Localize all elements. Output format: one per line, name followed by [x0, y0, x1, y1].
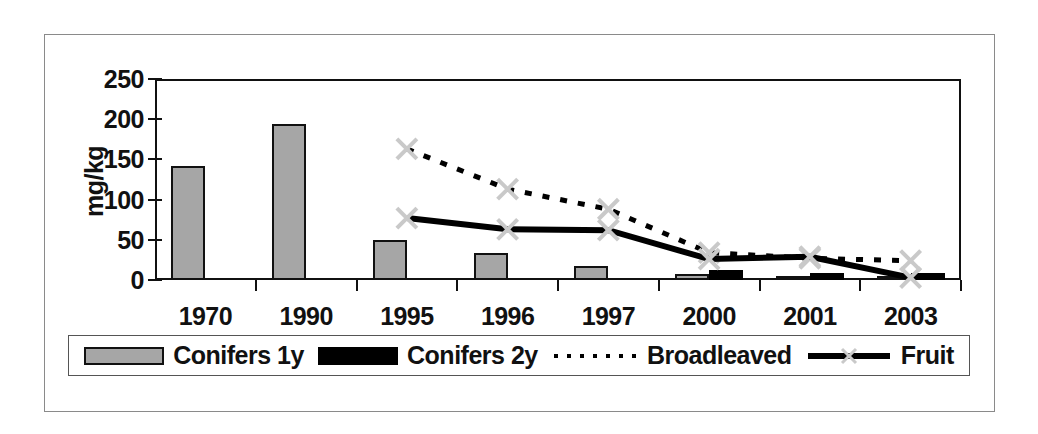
- x-tick-mark: [658, 280, 660, 291]
- legend-label: Fruit: [901, 341, 954, 370]
- black-bar-swatch: [318, 347, 398, 365]
- y-tick-label: 0: [131, 268, 144, 293]
- legend-label: Conifers 2y: [407, 341, 538, 370]
- line-series-layer: [155, 79, 961, 280]
- x-tick-mark: [759, 280, 761, 291]
- x-tick-label: 1970: [179, 302, 232, 331]
- chart-figure: mg/kg 050100150200250 197019901995199619…: [44, 34, 995, 412]
- legend-item-conifers-2y[interactable]: Conifers 2y: [318, 341, 538, 370]
- legend-item-fruit[interactable]: Fruit: [806, 341, 954, 370]
- marker-x-broadleaved: [498, 179, 518, 199]
- y-tick-label: 50: [117, 227, 144, 252]
- plot-area: mg/kg 050100150200250 197019901995199619…: [155, 79, 961, 280]
- legend-item-conifers-1y[interactable]: Conifers 1y: [84, 341, 304, 370]
- marker-x-broadleaved: [397, 139, 417, 159]
- x-tick-mark: [356, 280, 358, 291]
- solid-line-x-swatch: [806, 347, 892, 365]
- marker-x-broadleaved: [901, 251, 921, 271]
- y-tick-label: 250: [104, 67, 144, 92]
- legend-item-broadleaved[interactable]: Broadleaved: [552, 341, 792, 370]
- x-tick-label: 1996: [481, 302, 534, 331]
- x-tick-label: 1997: [582, 302, 635, 331]
- x-tick-label: 1995: [380, 302, 433, 331]
- x-tick-mark: [859, 280, 861, 291]
- x-tick-mark: [960, 280, 962, 291]
- y-tick-label: 200: [104, 107, 144, 132]
- x-tick-mark: [557, 280, 559, 291]
- x-tick-label: 1990: [280, 302, 333, 331]
- gray-bar-swatch: [84, 347, 164, 365]
- line-fruit: [407, 218, 911, 278]
- x-tick-mark: [456, 280, 458, 291]
- legend-label: Broadleaved: [647, 341, 792, 370]
- y-tick-label: 150: [104, 147, 144, 172]
- y-tick-label: 100: [104, 187, 144, 212]
- x-tick-label: 2001: [783, 302, 836, 331]
- dotted-line-swatch: [552, 347, 638, 365]
- x-tick-label: 2003: [884, 302, 937, 331]
- x-tick-label: 2000: [683, 302, 736, 331]
- chart-legend: Conifers 1yConifers 2yBroadleavedFruit: [68, 335, 970, 376]
- x-tick-mark: [255, 280, 257, 291]
- legend-label: Conifers 1y: [173, 341, 304, 370]
